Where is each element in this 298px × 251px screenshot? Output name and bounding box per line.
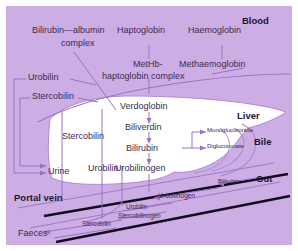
node-monoglucuronide: Monoglucuronide	[207, 127, 253, 134]
node-methb-line1: MetHb-	[133, 60, 163, 69]
node-urobilin-liver: Urobilin	[88, 164, 119, 173]
node-methaemoglobin: Methaemoglobin	[179, 60, 246, 69]
node-urobilinogen-liver: Urobilinogen	[115, 164, 166, 173]
node-methb-line2: haptoglobin complex	[102, 72, 185, 81]
node-haemoglobin: Haemoglobin	[188, 26, 241, 35]
node-biliverdin: Biliverdin	[125, 123, 162, 132]
node-stercobilin-gut: Stercobilin	[82, 221, 111, 228]
node-stercobilinogen-gut: Stercobilinogen	[118, 213, 161, 220]
region-label-gut: Gut	[256, 173, 272, 184]
diagram-canvas: Blood Liver Bile Gut Portal vein Bilirub…	[0, 0, 298, 251]
node-verdoglobin: Verdoglobin	[120, 102, 168, 111]
node-faeces: Faeces	[18, 229, 48, 238]
urine-arrow-head	[40, 164, 46, 169]
node-urine: Urine	[48, 167, 70, 176]
region-label-liver: Liver	[237, 110, 260, 121]
node-bilirubin-albumin-line2: complex	[61, 39, 95, 48]
node-diglucuronate: Diglucuronate	[207, 143, 244, 150]
node-urobilin-blood: Urobilin	[28, 73, 59, 82]
urine-arrow-head-2	[40, 171, 46, 176]
node-bilirubin-albumin-line1: Bilirubin—albumin	[32, 26, 105, 35]
node-urobilin-gut: Urobilin	[126, 204, 147, 211]
node-stercobilin-blood: Stercobilin	[32, 92, 74, 101]
node-urobilinogen-gut: Urobilinogen	[158, 192, 195, 199]
node-haptoglobin: Haptoglobin	[117, 26, 165, 35]
region-label-portal-vein: Portal vein	[14, 192, 63, 203]
region-label-bile: Bile	[254, 136, 271, 147]
diagram-panel: Blood Liver Bile Gut Portal vein Bilirub…	[6, 6, 292, 245]
left-collector-bracket-2	[20, 98, 46, 166]
node-bilirubin-liver: Bilirubin	[126, 144, 158, 153]
region-label-blood: Blood	[242, 15, 269, 26]
urobilin-left-connector	[70, 79, 96, 85]
gut-wall-lower	[56, 196, 290, 242]
node-stercobilin-liver: Stercobilin	[62, 132, 104, 141]
node-bilirubin-gut: Bilirubin	[218, 178, 239, 185]
